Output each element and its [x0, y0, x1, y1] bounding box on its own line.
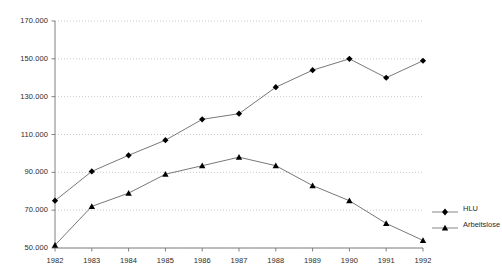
data-point-marker [236, 154, 242, 160]
x-axis-tick-label: 1984 [112, 256, 146, 265]
data-point-marker [310, 67, 316, 73]
x-axis-tick-label: 1983 [75, 256, 109, 265]
x-axis-tick-label: 1991 [369, 256, 403, 265]
chart-plot-area [0, 0, 502, 274]
legend-label-arbeitslose: Arbeitslose [463, 220, 500, 229]
data-point-marker [199, 116, 205, 122]
legend-marker-diamond-icon [432, 203, 458, 213]
legend-item-arbeitslose[interactable]: Arbeitslose [432, 216, 500, 232]
data-point-marker [309, 182, 315, 188]
legend-marker-triangle-icon [432, 219, 458, 229]
gridlines [55, 21, 423, 248]
data-point-marker [346, 198, 352, 204]
x-axis [55, 248, 423, 252]
data-series-group [52, 56, 426, 248]
data-point-marker [89, 203, 95, 209]
y-axis-tick-label: 50.000 [2, 243, 48, 252]
data-point-marker [273, 84, 279, 90]
legend-label-hlu: HLU [463, 204, 478, 213]
data-point-marker [383, 220, 389, 226]
chart-legend: HLU Arbeitslose [432, 200, 500, 232]
y-axis-tick-label: 170.000 [2, 16, 48, 25]
x-axis-tick-label: 1985 [148, 256, 182, 265]
x-axis-tick-label: 1990 [332, 256, 366, 265]
x-axis-tick-label: 1989 [296, 256, 330, 265]
y-axis-tick-label: 130.000 [2, 92, 48, 101]
data-point-marker [126, 152, 132, 158]
data-point-marker [162, 137, 168, 143]
data-point-marker [420, 58, 426, 64]
data-point-marker [236, 111, 242, 117]
x-axis-tick-label: 1982 [38, 256, 72, 265]
y-axis-tick-label: 110.000 [2, 130, 48, 139]
data-point-marker [346, 56, 352, 62]
x-axis-tick-label: 1988 [259, 256, 293, 265]
chart-container: 50.00070.00090.000110.000130.000150.0001… [0, 0, 502, 274]
data-point-marker [125, 190, 131, 196]
data-point-marker [383, 75, 389, 81]
y-axis [52, 21, 56, 248]
data-point-marker [420, 237, 426, 243]
y-axis-tick-label: 150.000 [2, 54, 48, 63]
x-axis-tick-label: 1986 [185, 256, 219, 265]
x-axis-tick-label: 1992 [406, 256, 440, 265]
y-axis-tick-label: 90.000 [2, 167, 48, 176]
y-axis-tick-label: 70.000 [2, 205, 48, 214]
x-axis-tick-label: 1987 [222, 256, 256, 265]
legend-item-hlu[interactable]: HLU [432, 200, 500, 216]
